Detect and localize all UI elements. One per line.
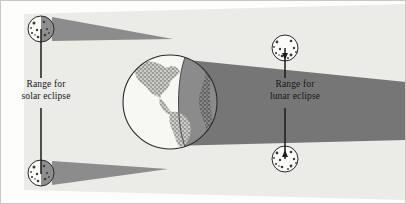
eclipse-diagram: Range for solar eclipse Range for lunar …	[0, 0, 406, 204]
label-lunar-line1: Range for	[255, 79, 335, 91]
label-lunar-eclipse: Range for lunar eclipse	[255, 79, 335, 102]
label-solar-line2: solar eclipse	[6, 91, 86, 103]
label-solar-eclipse: Range for solar eclipse	[6, 79, 86, 102]
diagram-canvas	[0, 0, 406, 204]
label-solar-line1: Range for	[6, 79, 86, 91]
label-lunar-line2: lunar eclipse	[255, 91, 335, 103]
